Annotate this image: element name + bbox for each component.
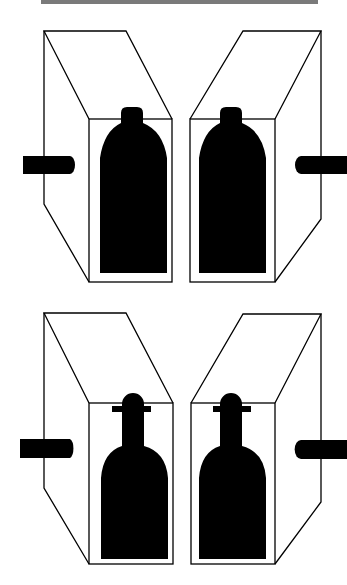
bottle-top-left — [100, 107, 167, 273]
rod-bottom-right — [295, 440, 347, 459]
bottle-bottom-left — [101, 393, 168, 559]
bottle-box-diagram — [0, 0, 347, 585]
rod-top-right — [295, 156, 347, 174]
rod-top-left — [23, 156, 75, 174]
bottle-top-right — [199, 107, 266, 273]
bottle-bottom-right — [199, 393, 266, 559]
rod-bottom-left — [20, 439, 73, 458]
